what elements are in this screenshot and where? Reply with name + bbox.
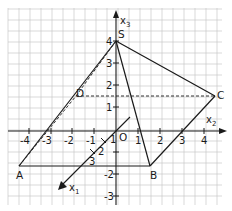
tick-label: -4 <box>20 135 30 146</box>
tick-label: -1 <box>86 135 96 146</box>
tick-label: -3 <box>42 135 52 146</box>
tick-label: 1 <box>106 102 112 113</box>
tick-label: 3 <box>106 58 112 69</box>
tick-label: -2 <box>64 135 74 146</box>
x2-axis-label: x2 <box>206 114 216 128</box>
tick-label: 1 <box>135 135 141 146</box>
point-label-d: D <box>76 87 84 99</box>
tick-label: 4 <box>106 36 112 47</box>
tick-label: 2 <box>157 135 163 146</box>
tick-label: 2 <box>106 80 112 91</box>
tick-label: 1 <box>110 134 116 145</box>
tick-label: 3 <box>179 135 185 146</box>
x1-axis <box>58 117 130 190</box>
tick-label: -2 <box>104 169 114 180</box>
x1-axis-label: x1 <box>69 182 79 196</box>
tick-label: -3 <box>104 191 114 202</box>
origin-label: O <box>119 131 127 143</box>
point-label-a: A <box>16 169 24 181</box>
point-label-s: S <box>118 28 125 40</box>
pyramid-edges <box>19 41 215 166</box>
tick-label: 2 <box>98 146 104 157</box>
point-label-b: B <box>150 169 157 181</box>
tick-label: 4 <box>201 135 207 146</box>
tick-label: 3 <box>89 156 95 167</box>
point-label-c: C <box>217 89 224 101</box>
pyramid-diagram: -4 -3 -2 -1 1 2 3 4 4 3 2 1 -2 -3 1 2 3 … <box>0 0 232 211</box>
